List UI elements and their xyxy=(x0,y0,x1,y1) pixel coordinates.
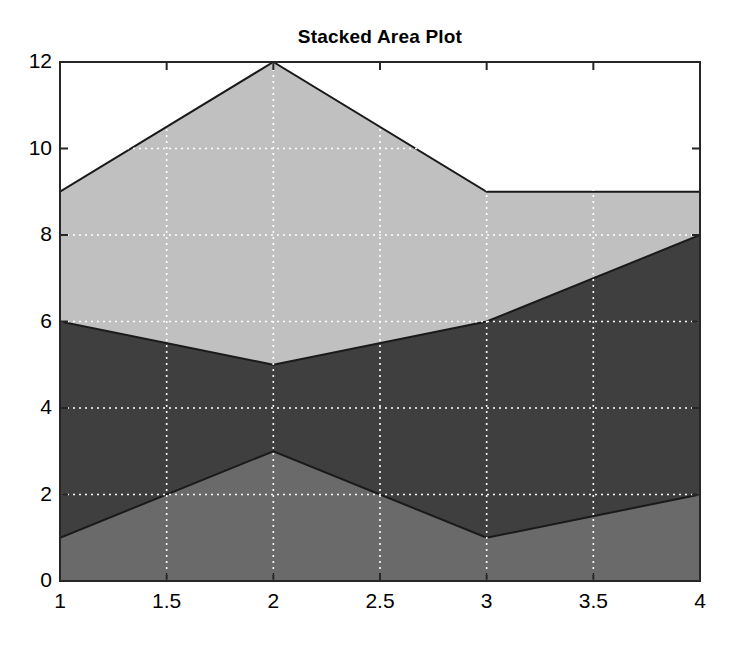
x-tick-label: 4 xyxy=(670,589,730,613)
x-tick-label: 1 xyxy=(30,589,90,613)
y-tick-label: 10 xyxy=(8,136,52,160)
x-tick-label: 1.5 xyxy=(137,589,197,613)
y-tick-label: 12 xyxy=(8,49,52,73)
x-tick-label: 3 xyxy=(457,589,517,613)
y-tick-label: 4 xyxy=(8,395,52,419)
x-tick-label: 2.5 xyxy=(350,589,410,613)
y-tick-label: 6 xyxy=(8,309,52,333)
x-tick-label: 2 xyxy=(243,589,303,613)
y-tick-label: 2 xyxy=(8,482,52,506)
y-tick-label: 8 xyxy=(8,222,52,246)
x-tick-label: 3.5 xyxy=(563,589,623,613)
plot-area xyxy=(0,0,736,646)
figure-canvas: Stacked Area Plot 024681012 11.522.533.5… xyxy=(0,0,736,646)
